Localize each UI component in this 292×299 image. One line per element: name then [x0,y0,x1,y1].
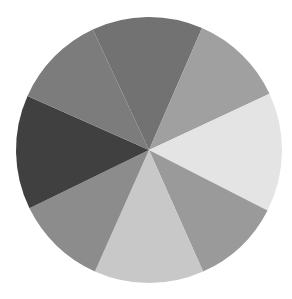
pie-chart-canvas [0,0,292,299]
pie-slices [16,17,282,283]
pie-chart [0,0,292,299]
